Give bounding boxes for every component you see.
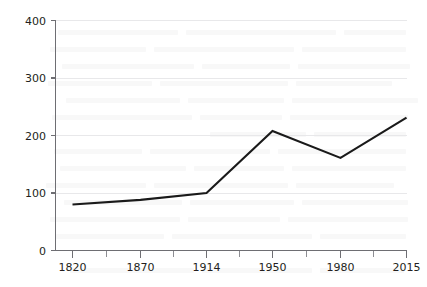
x-tick-label-2015: 2015 [393, 261, 421, 274]
y-tick-label-0: 0 [39, 245, 46, 258]
gridlines [56, 21, 407, 194]
y-tick-label-300: 300 [25, 72, 46, 85]
x-tick-label-1980: 1980 [327, 261, 355, 274]
y-tick-label-400: 400 [25, 15, 46, 28]
x-tick-label-1914: 1914 [193, 261, 221, 274]
y-tick-label-200: 200 [25, 130, 46, 143]
data-series-line [73, 118, 407, 205]
y-tick-label-100: 100 [25, 187, 46, 200]
line-chart-plot: 400 300 200 100 0 1820 1870 1914 1950 19… [0, 0, 427, 287]
x-tick-label-1820: 1820 [59, 261, 87, 274]
x-axis: 1820 1870 1914 1950 1980 2015 [56, 251, 421, 275]
x-tick-label-1870: 1870 [127, 261, 155, 274]
y-axis: 400 300 200 100 0 [25, 15, 56, 258]
x-tick-label-1950: 1950 [259, 261, 287, 274]
chart-container: 400 300 200 100 0 1820 1870 1914 1950 19… [0, 0, 427, 287]
